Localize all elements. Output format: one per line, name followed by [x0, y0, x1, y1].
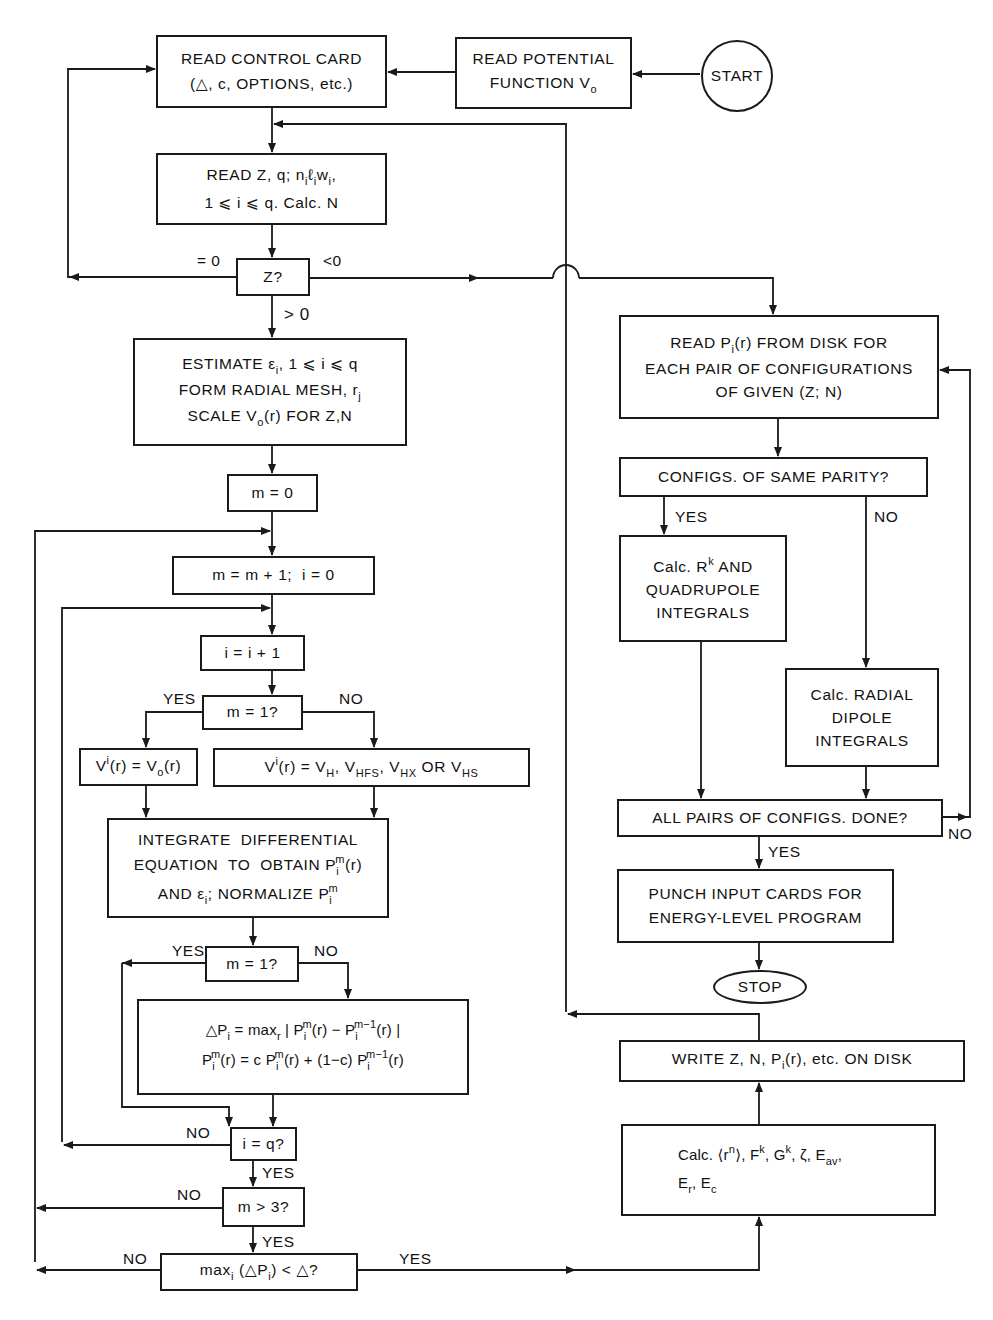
estimate-box: ESTIMATE εi, 1 ⩽ i ⩽ q FORM RADIAL MESH,… [133, 338, 407, 446]
read-z-q-box: READ Z, q; niℓiwi, 1 ⩽ i ⩽ q. Calc. N [156, 153, 387, 225]
punch-line1: PUNCH INPUT CARDS FOR [649, 882, 863, 906]
m-zero-label: m = 0 [251, 481, 293, 505]
punch-cards-box: PUNCH INPUT CARDS FOR ENERGY-LEVEL PROGR… [617, 869, 894, 943]
convergence-label: maxi (△Pi) < △? [200, 1258, 318, 1285]
write-disk-box: WRITE Z, N, Pi(r), etc. ON DISK [619, 1040, 965, 1082]
read-pi-box: READ Pi(r) FROM DISK FOR EACH PAIR OF CO… [619, 315, 939, 419]
parity-yes-label: YES [675, 508, 708, 526]
v-options-text: Vi(r) = VH, VHFS, VHX OR VHS [265, 753, 479, 782]
convergence-decision: maxi (△Pi) < △? [160, 1253, 358, 1291]
m1a-no-label: NO [339, 690, 363, 708]
v-initial-text: Vi(r) = Vo(r) [96, 752, 182, 781]
m-gt-3-decision: m > 3? [222, 1187, 305, 1227]
m-increment-box: m = m + 1; i = 0 [172, 556, 375, 595]
m1a-yes-label: YES [163, 690, 196, 708]
conv-yes-label: YES [399, 1250, 432, 1268]
m-one-b-label: m = 1? [226, 952, 277, 976]
integrate-line1: INTEGRATE DIFFERENTIAL [138, 828, 358, 851]
iq-no-label: NO [186, 1124, 210, 1142]
calc-params-line2: Er, Ec [678, 1171, 717, 1199]
i-increment-box: i = i + 1 [200, 635, 305, 671]
stop-terminal: STOP [713, 970, 807, 1004]
read-pi-line1: READ Pi(r) FROM DISK FOR [670, 331, 888, 358]
read-potential-line2: FUNCTION Vo [490, 71, 597, 98]
start-terminal: START [701, 40, 773, 112]
z-decision-box: Z? [236, 258, 310, 296]
m-one-a-label: m = 1? [227, 700, 278, 724]
m3-yes-label: YES [262, 1233, 295, 1251]
calc-params-box: Calc. ⟨rn⟩, Fk, Gk, ζ, Eav, Er, Ec [621, 1124, 936, 1216]
estimate-line1: ESTIMATE εi, 1 ⩽ i ⩽ q [182, 353, 358, 379]
read-pi-line2: EACH PAIR OF CONFIGURATIONS [645, 357, 913, 380]
delta-p-line2: Pim(r) = c Pim(r) + (1−c) Pim−1(r) [202, 1045, 404, 1075]
calc-rk-line3: INTEGRALS [656, 601, 749, 624]
pairs-no-label: NO [948, 825, 972, 843]
calc-dipole-box: Calc. RADIAL DIPOLE INTEGRALS [785, 668, 939, 767]
connector-lines [0, 0, 993, 1320]
calc-dipole-line1: Calc. RADIAL [811, 683, 914, 706]
calc-rk-line1: Calc. Rk AND [653, 553, 753, 578]
i-eq-q-decision: i = q? [230, 1127, 297, 1161]
m3-no-label: NO [177, 1186, 201, 1204]
i-eq-q-label: i = q? [243, 1132, 285, 1156]
read-z-line1: READ Z, q; niℓiwi, [207, 163, 337, 190]
all-pairs-label: ALL PAIRS OF CONFIGS. DONE? [652, 806, 908, 830]
iq-yes-label: YES [262, 1164, 295, 1182]
same-parity-decision: CONFIGS. OF SAME PARITY? [619, 457, 928, 497]
read-potential-box: READ POTENTIAL FUNCTION Vo [455, 37, 632, 109]
v-options-box: Vi(r) = VH, VHFS, VHX OR VHS [213, 748, 530, 787]
m-one-decision-a: m = 1? [202, 695, 303, 730]
m-zero-box: m = 0 [227, 474, 318, 512]
m-gt-3-label: m > 3? [238, 1195, 289, 1219]
all-pairs-decision: ALL PAIRS OF CONFIGS. DONE? [617, 799, 943, 837]
estimate-line2: FORM RADIAL MESH, rj [179, 379, 362, 405]
estimate-line3: SCALE Vo(r) FOR Z,N [188, 405, 353, 431]
m-increment-label: m = m + 1; i = 0 [212, 563, 335, 587]
start-label: START [711, 67, 763, 85]
read-z-line2: 1 ⩽ i ⩽ q. Calc. N [204, 191, 338, 215]
calc-dipole-line2: DIPOLE [832, 706, 892, 729]
calc-rk-line2: QUADRUPOLE [646, 578, 761, 601]
punch-line2: ENERGY-LEVEL PROGRAM [649, 906, 862, 930]
calc-dipole-line3: INTEGRALS [815, 729, 908, 752]
delta-p-box: △Pi = maxr | Pim(r) − Pim−1(r) | Pim(r) … [137, 999, 469, 1095]
i-increment-label: i = i + 1 [224, 641, 280, 665]
read-potential-line1: READ POTENTIAL [473, 47, 615, 71]
calc-params-line1: Calc. ⟨rn⟩, Fk, Gk, ζ, Eav, [678, 1141, 842, 1171]
parity-no-label: NO [874, 508, 898, 526]
calc-rk-box: Calc. Rk AND QUADRUPOLE INTEGRALS [619, 535, 787, 642]
read-control-line1: READ CONTROL CARD [181, 47, 362, 71]
m1b-yes-label: YES [172, 942, 205, 960]
delta-p-line1: △Pi = maxr | Pim(r) − Pim−1(r) | [206, 1015, 401, 1045]
z-lt-0-label: <0 [323, 252, 342, 270]
read-control-card-box: READ CONTROL CARD (△, c, OPTIONS, etc.) [156, 35, 387, 108]
conv-no-label: NO [123, 1250, 147, 1268]
write-disk-text: WRITE Z, N, Pi(r), etc. ON DISK [672, 1047, 913, 1074]
read-control-line2: (△, c, OPTIONS, etc.) [190, 72, 353, 96]
stop-label: STOP [738, 978, 782, 996]
integrate-line3: AND εi; NORMALIZE Pim [158, 880, 338, 909]
integrate-line2: EQUATION TO OBTAIN Pim(r) [134, 851, 363, 880]
m1b-no-label: NO [314, 942, 338, 960]
z-gt-0-label: > 0 [284, 305, 310, 325]
read-pi-line3: OF GIVEN (Z; N) [716, 380, 843, 403]
same-parity-label: CONFIGS. OF SAME PARITY? [658, 465, 889, 489]
integrate-box: INTEGRATE DIFFERENTIAL EQUATION TO OBTAI… [107, 818, 389, 918]
m-one-decision-b: m = 1? [205, 946, 299, 982]
pairs-yes-label: YES [768, 843, 801, 861]
v-initial-box: Vi(r) = Vo(r) [79, 748, 198, 786]
z-decision-label: Z? [263, 265, 282, 289]
z-eq-0-label: = 0 [197, 252, 220, 270]
